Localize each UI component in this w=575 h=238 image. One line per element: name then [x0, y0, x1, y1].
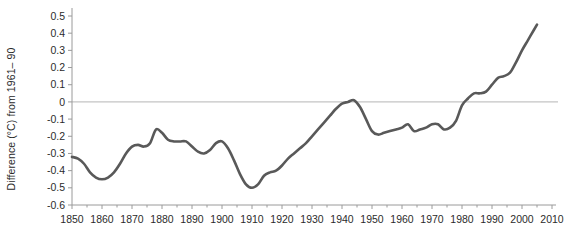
x-tick-label: 1960 [390, 213, 414, 225]
temperature-anomaly-chart: Difference (°C) from 1961– 90 0.50.40.30… [0, 0, 575, 238]
y-tick-label: -0.5 [47, 181, 65, 193]
y-tick-labels-group: 0.50.40.30.20.10-0.1-0.2-0.3-0.4-0.5-0.6 [47, 10, 65, 211]
y-tick-label: 0.4 [50, 27, 65, 39]
x-tick-label: 1930 [300, 213, 324, 225]
tick-marks-group [68, 16, 552, 209]
y-tick-label: 0.2 [50, 61, 65, 73]
y-tick-label: -0.6 [47, 199, 65, 211]
x-tick-label: 1990 [480, 213, 504, 225]
x-tick-label: 1980 [450, 213, 474, 225]
x-tick-label: 1890 [180, 213, 204, 225]
x-tick-label: 1920 [270, 213, 294, 225]
x-tick-label: 1910 [240, 213, 264, 225]
x-tick-labels-group: 1850186018701880189019001910192019301940… [60, 213, 564, 225]
axes-group [72, 8, 556, 205]
y-tick-label: 0.1 [50, 78, 65, 90]
x-tick-label: 1940 [330, 213, 354, 225]
x-tick-label: 1970 [420, 213, 444, 225]
x-tick-label: 1870 [120, 213, 144, 225]
x-tick-label: 2010 [540, 213, 564, 225]
x-tick-label: 1900 [210, 213, 234, 225]
x-tick-label: 1880 [150, 213, 174, 225]
y-tick-label: -0.4 [47, 164, 65, 176]
x-tick-label: 1850 [60, 213, 84, 225]
x-tick-label: 1860 [90, 213, 114, 225]
y-tick-label: 0.3 [50, 44, 65, 56]
y-tick-label: -0.2 [47, 130, 65, 142]
x-tick-label: 2000 [510, 213, 534, 225]
y-tick-label: 0 [59, 96, 65, 108]
y-tick-label: -0.3 [47, 147, 65, 159]
y-tick-label: -0.1 [47, 113, 65, 125]
series-line-0 [72, 25, 537, 188]
x-tick-label: 1950 [360, 213, 384, 225]
y-tick-label: 0.5 [50, 10, 65, 22]
data-series-group [72, 25, 537, 188]
plot-area: 0.50.40.30.20.10-0.1-0.2-0.3-0.4-0.5-0.6… [0, 0, 575, 238]
